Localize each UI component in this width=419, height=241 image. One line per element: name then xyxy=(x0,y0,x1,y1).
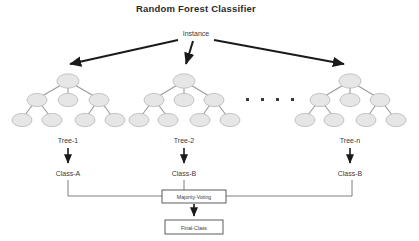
tree-node xyxy=(105,113,125,126)
tree-node xyxy=(158,113,178,126)
final-class-box: Final-Class xyxy=(165,220,223,234)
tree-n-outcome: Class-B xyxy=(338,170,363,177)
tree-node xyxy=(190,113,210,126)
diagram-canvas: Random Forest Classifier Instance xyxy=(0,0,419,241)
tree-2-graphic: Tree-2 Class-B xyxy=(129,74,240,177)
tree-n-graphic: Tree-n Class-B xyxy=(295,74,406,177)
page-title: Random Forest Classifier xyxy=(136,3,256,14)
majority-voting-label: Majority-Voting xyxy=(177,194,211,200)
tree-node xyxy=(370,93,390,106)
root-label: Instance xyxy=(183,30,210,37)
final-class-label: Final-Class xyxy=(181,225,207,231)
tree-node xyxy=(129,113,149,126)
tree-node xyxy=(58,93,78,106)
majority-voting-box: Majority-Voting xyxy=(162,190,226,203)
tree-2-outcome: Class-B xyxy=(172,170,197,177)
arrow-instance-to-tree-1 xyxy=(70,40,178,64)
tree-node xyxy=(220,113,240,126)
arrow-instance-to-tree-2 xyxy=(186,41,193,64)
tree-n-label: Tree-n xyxy=(340,137,360,144)
arrow-instance-to-tree-n xyxy=(214,40,344,64)
tree-1-outcome: Class-A xyxy=(56,170,81,177)
tree-node xyxy=(324,113,344,126)
tree-node xyxy=(27,93,47,106)
tree-node xyxy=(174,93,194,106)
tree-node xyxy=(204,93,224,106)
tree-node xyxy=(386,113,406,126)
root-branch-arrows xyxy=(70,40,344,64)
tree-2-label: Tree-2 xyxy=(174,137,194,144)
tree-node xyxy=(295,113,315,126)
tree-node xyxy=(75,113,95,126)
tree-node xyxy=(173,74,195,88)
tree-node xyxy=(339,74,361,88)
random-forest-diagram: Random Forest Classifier Instance xyxy=(0,0,419,241)
tree-node xyxy=(356,113,376,126)
tree-node xyxy=(144,93,164,106)
tree-node xyxy=(42,113,62,126)
tree-node xyxy=(89,93,109,106)
tree-node xyxy=(12,113,32,126)
tree-node xyxy=(310,93,330,106)
tree-1-graphic: Tree-1 Class-A xyxy=(12,74,125,177)
ellipsis-dots xyxy=(246,98,294,101)
tree-1-label: Tree-1 xyxy=(58,137,78,144)
tree-node xyxy=(340,93,360,106)
tree-node xyxy=(57,74,79,88)
